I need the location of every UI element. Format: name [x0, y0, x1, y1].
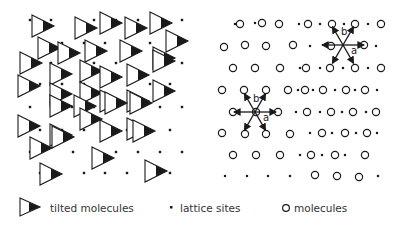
lattice-site-dot — [83, 129, 85, 131]
tilted-molecule — [92, 147, 114, 169]
legend-molecule-icon — [283, 205, 290, 212]
vector-a-label: a — [351, 45, 357, 56]
molecule-circle — [333, 172, 340, 179]
lattice-site-dot — [39, 129, 41, 131]
lattice-site-dot — [104, 172, 106, 174]
tilted-molecule — [166, 30, 188, 52]
lattice-site-dot — [297, 89, 299, 91]
vector-b-label: b — [253, 93, 259, 104]
molecule-circle — [241, 130, 248, 137]
molecule-circle — [262, 130, 269, 137]
lattice-site-dot — [149, 42, 151, 44]
lattice-site-dot — [61, 83, 63, 85]
lattice-site-dot — [341, 111, 343, 113]
lattice-site-dot — [376, 89, 378, 91]
molecules-group — [218, 19, 384, 180]
molecule-circle — [311, 171, 318, 178]
tilted-molecule — [80, 60, 102, 82]
molecule-circle — [284, 86, 291, 93]
lattice-site-dot — [376, 132, 378, 134]
molecule-circle — [262, 86, 269, 93]
molecule-circle — [355, 173, 362, 180]
molecule-circle — [327, 108, 334, 115]
molecule-circle — [289, 41, 296, 48]
molecule-circle — [262, 42, 269, 49]
tilted-molecule — [120, 40, 142, 62]
molecule-circle — [229, 151, 236, 158]
molecule-circle — [258, 19, 265, 26]
lattice-site-dot — [246, 175, 248, 177]
molecule-circle — [319, 86, 326, 93]
lattice-site-dot — [50, 19, 52, 21]
molecule-circle — [341, 129, 348, 136]
molecule-circle — [349, 108, 356, 115]
legend-tilted-molecules-label: tilted molecules — [50, 202, 134, 214]
molecule-circle — [361, 86, 368, 93]
lattice-vectors: abab — [234, 26, 364, 130]
lattice-site-dot — [29, 19, 31, 21]
lattice-site-dot — [367, 67, 369, 69]
lattice-site-dot — [344, 154, 346, 156]
tilted-molecule — [130, 92, 152, 114]
molecule-circle — [304, 20, 311, 27]
lattice-site-dot — [181, 106, 183, 108]
tilted-molecule — [150, 12, 172, 34]
tilted-molecule — [145, 160, 167, 182]
lattice-site-dot — [319, 67, 321, 69]
lattice-site-dot — [159, 151, 161, 153]
vector-b-label: b — [341, 26, 347, 37]
tilted-molecule — [32, 15, 54, 37]
tilted-molecule — [127, 64, 149, 86]
molecule-circle — [326, 64, 333, 71]
lattice-site-dot — [342, 67, 344, 69]
molecule-circle — [241, 41, 248, 48]
molecule-circle — [275, 20, 282, 27]
lattice-site-dot — [93, 62, 95, 64]
lattice-site-dot — [149, 83, 151, 85]
tilted-molecule — [58, 42, 80, 64]
legend-lattice-sites-label: lattice sites — [180, 202, 241, 214]
lattice-site-dot — [267, 175, 269, 177]
molecule-circle — [328, 20, 335, 27]
lattice-site-dot — [367, 23, 369, 25]
lattice-site-dot — [355, 132, 357, 134]
molecule-circle — [342, 86, 349, 93]
molecule-circle — [276, 151, 283, 158]
lattice-site-dot — [299, 154, 301, 156]
lattice-site-dot — [343, 23, 345, 25]
molecule-circle — [276, 64, 283, 71]
tilted-molecule — [133, 120, 155, 142]
tilted-molecule — [100, 120, 122, 142]
molecule-circle — [377, 64, 384, 71]
molecule-circle — [327, 42, 334, 49]
molecule-circle — [377, 20, 384, 27]
lattice-vector-star: ab — [322, 26, 364, 63]
tilted-molecule — [100, 66, 122, 88]
lattice-site-dot — [354, 89, 356, 91]
lattice-site-dot — [115, 151, 117, 153]
molecule-circle — [301, 86, 308, 93]
lattice-site-dot — [321, 154, 323, 156]
lattice-site-dot — [254, 22, 256, 24]
lattice-site-dot — [83, 172, 85, 174]
lattice-site-dot — [334, 89, 336, 91]
lattice-site-dot — [181, 19, 183, 21]
lattice-site-dot — [104, 42, 106, 44]
tilted-molecule — [50, 63, 72, 85]
molecule-circle — [331, 151, 338, 158]
tilted-molecule — [80, 108, 102, 130]
legend-lattice-site-icon — [170, 206, 173, 209]
tilted-molecule — [18, 115, 40, 137]
molecule-circle — [302, 64, 309, 71]
lattice-site-dot — [159, 106, 161, 108]
lattice-site-dot — [126, 172, 128, 174]
lattice-site-dot — [115, 62, 117, 64]
lattice-site-dot — [72, 151, 74, 153]
molecule-circle — [363, 129, 370, 136]
tilted-molecule — [18, 75, 40, 97]
molecule-circle — [229, 64, 236, 71]
molecule-circle — [286, 130, 293, 137]
lattice-site-dot — [181, 62, 183, 64]
vector-a-label: a — [263, 112, 269, 123]
lattice-diagram: abab — [0, 0, 399, 230]
